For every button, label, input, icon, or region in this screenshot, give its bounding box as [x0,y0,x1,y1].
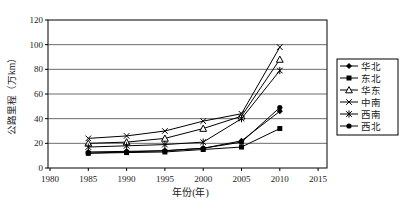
y-tick-label: 60 [34,89,44,99]
highway-mileage-line-chart: 0204060801001201980198519901995200020052… [0,0,404,210]
y-tick-label: 40 [34,114,44,124]
x-tick-label: 1990 [118,174,137,184]
x-tick-label: 1985 [79,174,98,184]
legend-item-label: 华东 [361,85,381,96]
legend-item-label: 中南 [361,97,381,108]
x-tick-label: 1995 [156,174,175,184]
x-tick-label: 1980 [41,174,60,184]
data-point-1-4 [239,145,244,150]
y-tick-label: 20 [34,138,44,148]
data-point-5-4 [239,140,244,145]
x-axis-title: 年份(年) [172,186,209,199]
x-tick-label: 2015 [309,174,328,184]
y-tick-label: 100 [30,40,44,50]
x-tick-label: 2005 [233,174,252,184]
x-tick-label: 2000 [194,174,213,184]
chart-canvas: 0204060801001201980198519901995200020052… [0,0,404,210]
legend-item-label: 西南 [361,109,381,120]
legend-marker-square-icon [347,76,352,81]
legend-item-label: 东北 [361,73,381,84]
data-point-5-1 [124,149,129,154]
data-point-5-2 [162,148,167,153]
legend-marker-circle-icon [346,123,351,128]
data-point-5-3 [201,146,206,151]
data-point-5-5 [277,105,282,110]
y-tick-label: 120 [30,15,44,25]
x-tick-label: 2010 [271,174,290,184]
y-tick-label: 80 [34,64,44,74]
legend-item-label: 西北 [361,122,381,132]
legend-item-label: 华北 [361,61,381,72]
data-point-1-5 [277,126,282,131]
y-tick-label: 0 [39,163,44,173]
y-axis-title: 公路里程（万km） [6,53,17,135]
data-point-5-0 [86,151,91,156]
